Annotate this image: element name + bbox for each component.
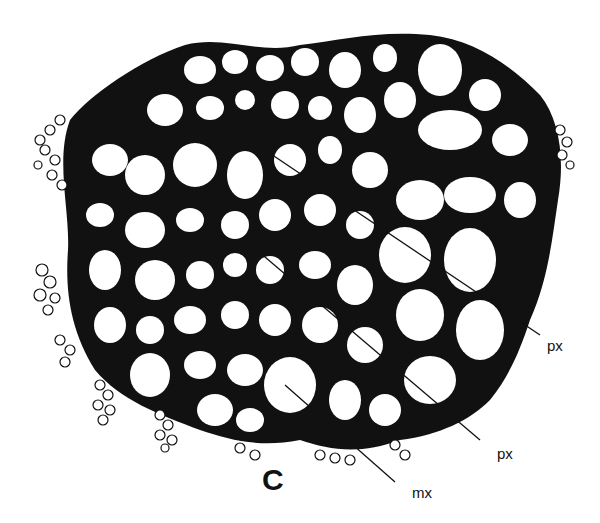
label-mx: mx bbox=[412, 485, 432, 500]
label-px-upper: px bbox=[547, 338, 563, 353]
label-px-lower: px bbox=[497, 446, 513, 461]
panel-label: C bbox=[262, 465, 284, 495]
